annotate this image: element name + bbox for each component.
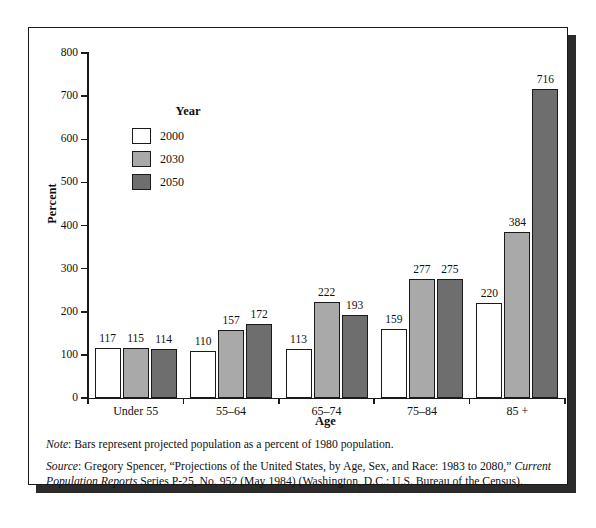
y-axis-tick-label: 0 xyxy=(36,392,78,404)
x-axis-category-label: 65–74 xyxy=(279,404,374,419)
legend-item-2030: 2030 xyxy=(132,147,228,170)
bar-2030-55–64 xyxy=(218,330,244,398)
figure-notes: Note: Bars represent projected populatio… xyxy=(46,437,551,490)
bar-2050-55–64 xyxy=(246,324,272,398)
y-axis-tick-label: 300 xyxy=(36,263,78,275)
y-axis-tick xyxy=(81,311,88,313)
legend-item-2000: 2000 xyxy=(132,124,228,147)
x-axis-category-label: Under 55 xyxy=(88,404,183,419)
bar-2030-under-55 xyxy=(123,348,149,398)
bar-value-label: 193 xyxy=(335,300,375,312)
x-axis-category-label: 75–84 xyxy=(374,404,469,419)
y-axis-title: Percent xyxy=(45,144,60,264)
bar-2050-75–84 xyxy=(437,279,463,398)
bar-value-label: 275 xyxy=(430,264,470,276)
y-axis-tick xyxy=(81,52,88,54)
bar-value-label: 159 xyxy=(374,314,414,326)
legend-title: Year xyxy=(148,104,228,119)
bar-2000-85-+ xyxy=(476,303,502,398)
bar-2050-65–74 xyxy=(342,315,368,398)
y-axis-tick xyxy=(81,225,88,227)
bar-value-label: 384 xyxy=(497,217,537,229)
y-axis-tick-label: 600 xyxy=(36,133,78,145)
source-line: Source: Gregory Spencer, “Projections of… xyxy=(46,459,551,490)
y-axis-tick-label: 200 xyxy=(36,306,78,318)
note-lead: Note xyxy=(46,438,68,451)
bar-2050-85-+ xyxy=(532,89,558,398)
source-lead: Source xyxy=(46,460,78,473)
bar-2030-85-+ xyxy=(504,232,530,398)
legend-swatch-2030 xyxy=(132,151,151,167)
bar-value-label: 172 xyxy=(239,309,279,321)
y-axis-tick-label: 800 xyxy=(36,47,78,59)
bar-2050-under-55 xyxy=(151,349,177,398)
note-line: Note: Bars represent projected populatio… xyxy=(46,437,551,453)
y-axis-tick-label: 700 xyxy=(36,90,78,102)
y-axis-tick xyxy=(81,95,88,97)
legend-swatch-2000 xyxy=(132,128,151,144)
legend-swatch-2050 xyxy=(132,174,151,190)
legend-label-2050: 2050 xyxy=(160,176,184,188)
y-axis-tick xyxy=(81,182,88,184)
note-text: : Bars represent projected population as… xyxy=(68,438,394,451)
bar-2000-under-55 xyxy=(95,348,121,398)
source-text-part2: Series P-25, No. 952 (May 1984) (Washing… xyxy=(137,475,523,488)
bar-value-label: 222 xyxy=(307,287,347,299)
y-axis-tick xyxy=(81,139,88,141)
bar-2030-75–84 xyxy=(409,279,435,398)
x-axis-category-label: 85 + xyxy=(470,404,565,419)
bar-2000-65–74 xyxy=(286,349,312,398)
y-axis-tick xyxy=(81,354,88,356)
bar-value-label: 110 xyxy=(183,336,223,348)
bar-2000-75–84 xyxy=(381,329,407,398)
bar-value-label: 113 xyxy=(279,334,319,346)
source-text-part1: : Gregory Spencer, “Projections of the U… xyxy=(78,460,514,473)
bar-2000-55–64 xyxy=(190,351,216,398)
legend-label-2000: 2000 xyxy=(160,130,184,142)
legend-item-2050: 2050 xyxy=(132,170,228,193)
y-axis-tick-label: 100 xyxy=(36,349,78,361)
bar-value-label: 220 xyxy=(469,288,509,300)
y-axis-tick-label: 400 xyxy=(36,220,78,232)
bar-2030-65–74 xyxy=(314,302,340,398)
y-axis-tick-label: 500 xyxy=(36,176,78,188)
bar-value-label: 114 xyxy=(144,334,184,346)
y-axis-tick xyxy=(81,268,88,270)
legend-label-2030: 2030 xyxy=(160,153,184,165)
chart-legend: Year 2000 2030 2050 xyxy=(132,104,228,193)
figure-root: Percent Age 0100200300400500600700800Und… xyxy=(0,0,596,528)
bar-value-label: 716 xyxy=(525,74,565,86)
x-axis-category-label: 55–64 xyxy=(183,404,278,419)
